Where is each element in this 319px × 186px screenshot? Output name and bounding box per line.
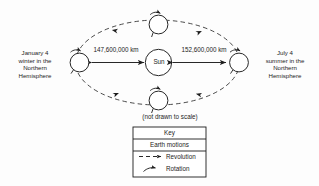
key-title: Key [133,129,206,136]
label-january-position: January 4 winter in the Northern Hemisph… [2,49,68,79]
july-date: July 4 [252,49,318,57]
label-july-position: July 4 summer in the Northern Hemisphere [252,49,318,79]
rotation-arrow-icon-bottom [150,88,160,90]
revolution-arrow-top-left [111,27,118,33]
january-line3: Northern [2,64,68,72]
january-date: January 4 [2,49,68,57]
earth-position-top [149,12,168,37]
january-line4: Hemisphere [2,72,68,80]
diagram-page: January 4 winter in the Northern Hemisph… [0,0,319,186]
earth-position-bottom [149,88,168,113]
key-subtitle: Earth motions [133,141,206,148]
revolution-arrow-top-right [195,29,202,35]
revolution-arrow-bottom-right [195,91,202,97]
scale-caption: (not drawn to scale) [114,113,226,121]
orbit-diagram-canvas [0,0,319,186]
july-line4: Hemisphere [252,72,318,80]
distance-label-july: 152,600,000 km [172,46,236,54]
distance-label-january: 147,600,000 km [84,46,148,54]
rotation-arrow-icon-top [150,12,160,14]
revolution-arrow-bottom-left [112,91,119,97]
sun-label: Sun [144,58,174,66]
july-line2: summer in the [252,57,318,65]
january-line2: winter in the [2,57,68,65]
key-entry-revolution-label: Revolution [166,153,196,160]
july-line3: Northern [252,64,318,72]
key-entry-rotation-label: Rotation [166,165,189,172]
rotation-arrow-icon-january [71,50,81,52]
